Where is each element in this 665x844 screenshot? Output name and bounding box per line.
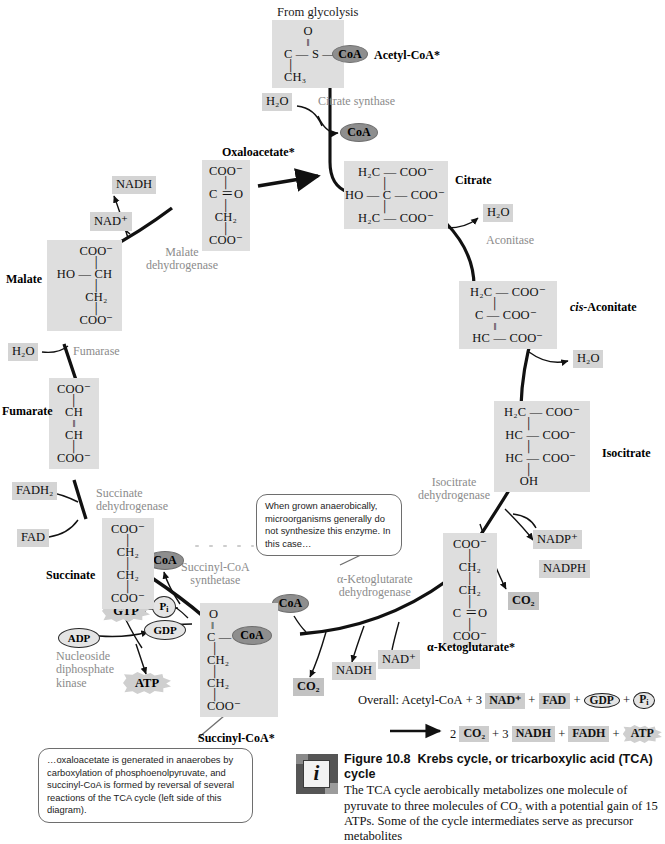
bond-row: │	[209, 201, 243, 210]
pi-ellipse-succinyl: Pi	[152, 596, 176, 618]
chip-fadh2: FADH₂	[12, 482, 57, 500]
atom-row: HO — C — COO⁻	[345, 188, 441, 202]
from-glycolysis-label: From glycolysis	[277, 5, 359, 20]
structure-succinyl-coa: O ‖ C — S — │ CH₂ │ CH₂ │ COO⁻	[200, 603, 278, 717]
enzyme-label: Aconitase	[486, 233, 534, 247]
eq-chip-nadh: NADH	[512, 726, 555, 742]
atom-row: COO⁻	[54, 244, 115, 258]
chip-h2o-aconitase: H₂O	[483, 204, 513, 222]
atom-row: H₂C — COO⁻	[351, 165, 441, 179]
bond-row: │	[450, 551, 490, 560]
eq-chip-fad: FAD	[539, 693, 571, 709]
coa-ellipse-acetyl: CoA	[332, 45, 368, 63]
enzyme-label-line: Succinyl-CoA	[181, 561, 250, 574]
atom-row: COO⁻	[207, 699, 271, 713]
bond-row: │	[56, 396, 92, 405]
atom-row: HC — COO⁻	[466, 331, 550, 345]
atom-row: COO⁻	[56, 451, 92, 465]
nadh-label: NADH	[116, 177, 152, 191]
coa-ellipse-released: CoA	[340, 123, 378, 142]
atom-row: H₂C — COO⁻	[351, 211, 441, 225]
bond-row: │	[279, 61, 337, 70]
bond-row: │	[54, 258, 115, 267]
figure-caption: i Figure 10.8 Krebs cycle, or tricarboxy…	[296, 752, 665, 844]
atom-row: HC — COO⁻	[501, 451, 583, 465]
structure-oxaloacetate: COO⁻ │ C ＝O │ CH₂ │ COO⁻	[202, 160, 250, 251]
metabolite-name-oxaloacetate: Oxaloacetate*	[222, 145, 295, 160]
bond-row: │	[351, 179, 441, 188]
coa-label: CoA	[153, 553, 176, 568]
nadp-plus-label: NADP⁺	[537, 532, 578, 546]
chip-nadp-plus: NADP⁺	[533, 530, 582, 549]
eq-token: 2	[450, 727, 456, 742]
overall-equation: Overall: Acetyl-CoA + 3 NAD⁺ + FAD + GDP…	[358, 692, 662, 747]
enzyme-label-line: dehydrogenase	[337, 586, 413, 599]
structure-fumarate: COO⁻ │ CH ‖ CH │ COO⁻	[49, 378, 99, 469]
atom-row: CH₃	[279, 70, 337, 84]
atom-row: COO⁻	[109, 591, 147, 605]
eq-chip-co2: CO₂	[459, 726, 489, 742]
atom-row: HC — COO⁻	[501, 428, 583, 442]
enzyme-label-line: α-Ketoglutarate	[337, 573, 413, 586]
atom-row: O	[207, 607, 271, 621]
eq-chip-nad-plus: NAD⁺	[485, 693, 525, 709]
bond-row: │	[450, 574, 490, 583]
enzyme-aconitase: Aconitase	[486, 234, 534, 247]
chip-fad: FAD	[17, 529, 49, 547]
eq-token: +	[573, 693, 580, 708]
bond-row: │	[466, 299, 550, 308]
atom-row: COO⁻	[54, 313, 115, 327]
enzyme-label-line: dehydrogenase	[418, 489, 490, 502]
eq-token: +	[558, 727, 565, 742]
enzyme-alpha-kg-dehydrogenase: α-Ketoglutarate dehydrogenase	[337, 573, 413, 600]
coa-label: CoA	[347, 125, 370, 140]
structure-cis-aconitate: H₂C — COO⁻ │ C — COO⁻ ‖ HC — COO⁻	[459, 281, 557, 349]
eq-token: +	[613, 727, 620, 742]
eq-token: + 3	[466, 693, 482, 708]
chip-co2-alpha-kg-dh: CO₂	[293, 678, 324, 696]
structure-alpha-ketoglutarate: COO⁻ │ CH₂ │ CH₂ │ C ＝O │ COO⁻	[443, 533, 497, 647]
chip-nadh-alpha-kg-dh: NADH	[332, 662, 376, 680]
bond-row: │	[109, 559, 147, 568]
chip-co2-isocitrate-dh: CO₂	[508, 592, 539, 610]
metabolite-name-succinyl-coa: Succinyl-CoA*	[198, 731, 275, 746]
name-rest: -Aconitate	[583, 300, 636, 314]
enzyme-label-line: synthetase	[181, 574, 250, 587]
bond-row: │	[209, 178, 243, 187]
bond-row: │	[207, 667, 271, 676]
h2o-label: H₂O	[266, 94, 288, 108]
bond-row: │	[207, 644, 271, 653]
nad-plus-label: NAD⁺	[94, 214, 128, 228]
atom-row: OH	[501, 474, 583, 488]
enzyme-nucleoside-diphosphate-kinase: Nucleoside diphosphate kinase	[56, 650, 114, 690]
bond-row: ‖	[56, 419, 92, 428]
structure-citrate: H₂C — COO⁻ │ HO — C — COO⁻ │ H₂C — COO⁻	[344, 161, 448, 229]
enzyme-label: Citrate synthase	[318, 94, 395, 108]
gdp-label: GDP	[153, 624, 176, 636]
bond-row: │	[501, 465, 583, 474]
callout-text: When grown anaerobically, microorganisms…	[265, 500, 391, 549]
enzyme-malate-dehydrogenase: Malate dehydrogenase	[146, 246, 218, 273]
enzyme-label-line: dehydrogenase	[96, 500, 168, 513]
overall-equation-line-1: Overall: Acetyl-CoA + 3 NAD⁺ + FAD + GDP…	[358, 692, 662, 714]
enzyme-isocitrate-dehydrogenase: Isocitrate dehydrogenase	[418, 476, 490, 503]
overall-label: Overall: Acetyl-CoA	[358, 693, 463, 708]
caption-figure-number: Figure 10.8	[344, 752, 411, 766]
bond-row: │	[54, 304, 115, 313]
coa-ellipse-attached-succinyl: CoA	[232, 626, 272, 645]
bond-row: │	[351, 202, 441, 211]
atom-row: COO⁻	[209, 233, 243, 247]
structure-malate: COO⁻ │ HO — CH │ CH₂ │ COO⁻	[47, 240, 122, 331]
coa-label: CoA	[279, 596, 302, 611]
italic-prefix: cis	[570, 300, 583, 314]
metabolite-name-citrate: Citrate	[455, 173, 492, 188]
bond-row: │	[501, 442, 583, 451]
atp-burst: ATP	[123, 672, 171, 694]
atom-row: H₂C — COO⁻	[501, 405, 583, 419]
eq-burst-atp: ATP	[623, 725, 662, 743]
atom-row: H₂C — COO⁻	[466, 285, 550, 299]
caption-body: The TCA cycle aerobically metabolizes on…	[344, 783, 665, 844]
fad-label: FAD	[21, 530, 45, 544]
enzyme-succinyl-coa-synthetase: Succinyl-CoA synthetase	[181, 561, 250, 588]
